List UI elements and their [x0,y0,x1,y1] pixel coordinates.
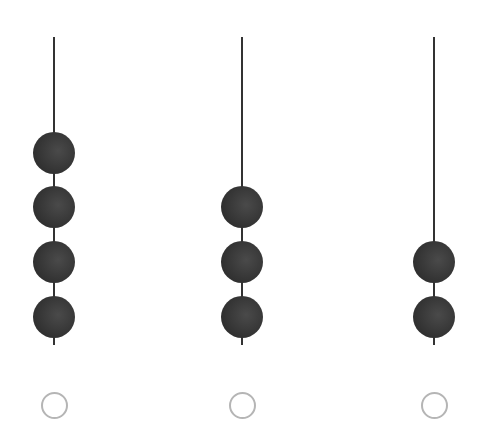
bead-icon [221,296,263,338]
bead-icon [413,241,455,283]
bead-icon [413,296,455,338]
bead-rod-2 [212,0,272,430]
bead-icon [33,186,75,228]
radio-button-option-3[interactable] [421,392,448,419]
bead-icon [33,132,75,174]
bead-icon [221,241,263,283]
bead-icon [33,241,75,283]
bead-rod-1 [24,0,84,430]
bead-icon [33,296,75,338]
radio-button-option-1[interactable] [41,392,68,419]
radio-button-option-2[interactable] [229,392,256,419]
bead-icon [221,186,263,228]
bead-rod-3 [404,0,464,430]
